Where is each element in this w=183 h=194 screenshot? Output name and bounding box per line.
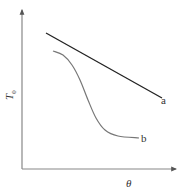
y-axis-label: T0 (4, 90, 18, 100)
series-a-label: a (161, 95, 166, 106)
x-axis-label: θ (126, 178, 131, 189)
series-b-curve (53, 51, 139, 138)
chart-plot (0, 0, 183, 194)
series-b-label: b (141, 133, 147, 144)
series-a-line (46, 33, 162, 98)
